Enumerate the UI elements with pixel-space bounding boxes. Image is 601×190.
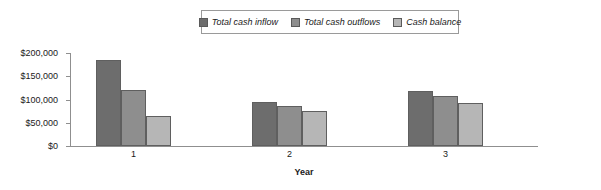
x-axis-tick-label: 1	[131, 150, 136, 159]
bar	[96, 60, 121, 146]
y-axis-tick-label: $150,000	[20, 72, 58, 81]
bar-chart: Total cash inflow Total cash outflows Ca…	[0, 0, 601, 190]
y-axis-labels: $0$50,000$100,000$150,000$200,000	[0, 53, 64, 146]
x-axis-labels: 123	[70, 150, 538, 162]
bar-series-container	[70, 53, 538, 146]
legend-label-series-2: Total cash outflows	[304, 18, 380, 27]
x-axis-title: Year	[70, 168, 538, 177]
chart-legend: Total cash inflow Total cash outflows Ca…	[201, 10, 459, 34]
bar	[458, 103, 483, 146]
bar	[408, 91, 433, 146]
x-axis-tick-label: 2	[287, 150, 292, 159]
bar	[302, 111, 327, 146]
bar	[121, 90, 146, 146]
legend-item-total-cash-outflows: Total cash outflows	[291, 18, 380, 27]
legend-label-series-3: Cash balance	[406, 18, 461, 27]
legend-label-series-1: Total cash inflow	[212, 18, 278, 27]
legend-swatch-icon-series-2	[291, 18, 300, 27]
bar	[146, 116, 171, 146]
bar	[277, 106, 302, 146]
y-axis-tick-label: $200,000	[20, 49, 58, 58]
plot-area	[70, 53, 538, 146]
legend-swatch-icon-series-3	[393, 18, 402, 27]
y-axis-tick-label: $100,000	[20, 95, 58, 104]
bar	[252, 102, 277, 146]
y-axis-tick-label: $0	[48, 142, 58, 151]
bar	[433, 96, 458, 146]
y-axis-tick	[66, 146, 70, 147]
x-axis-line	[70, 146, 538, 147]
legend-item-cash-balance: Cash balance	[393, 18, 461, 27]
legend-item-total-cash-inflow: Total cash inflow	[199, 18, 278, 27]
legend-swatch-icon-series-1	[199, 18, 208, 27]
x-axis-tick-label: 3	[443, 150, 448, 159]
y-axis-tick-label: $50,000	[25, 118, 58, 127]
